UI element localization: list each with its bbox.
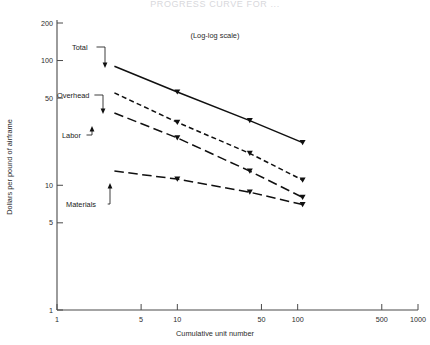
x-tick-label: 500 bbox=[376, 315, 388, 324]
leader-line-materials bbox=[108, 188, 110, 204]
leader-line-labor bbox=[87, 131, 93, 135]
x-axis-title: Cumulative unit number bbox=[176, 329, 255, 338]
data-point-marker bbox=[174, 135, 180, 140]
series-line-labor bbox=[114, 113, 302, 197]
data-point-marker bbox=[174, 89, 180, 94]
data-point-marker bbox=[300, 178, 306, 183]
series-label-total: Total bbox=[72, 43, 88, 52]
data-series-group bbox=[114, 66, 305, 207]
leader-arrow-materials bbox=[108, 183, 113, 189]
log-log-scale-note: (Log-log scale) bbox=[191, 31, 240, 40]
chart-title: PROGRESS CURVE FOR ... bbox=[150, 0, 280, 9]
x-tick-label: 1 bbox=[55, 315, 59, 324]
series-line-overhead bbox=[114, 93, 302, 180]
data-point-marker bbox=[300, 195, 306, 200]
y-tick-label: 10 bbox=[45, 181, 53, 190]
chart-canvas: PROGRESS CURVE FOR ... (Log-log scale) D… bbox=[0, 0, 430, 345]
y-axis-title: Dollars per pound of airframe bbox=[5, 119, 14, 215]
y-tick-label: 200 bbox=[41, 19, 53, 28]
progress-curve-chart: PROGRESS CURVE FOR ... (Log-log scale) D… bbox=[0, 0, 430, 345]
data-point-marker bbox=[174, 120, 180, 125]
series-line-total bbox=[114, 66, 302, 142]
data-point-marker bbox=[300, 140, 306, 145]
leader-arrow-overhead bbox=[101, 109, 106, 115]
y-tick-label: 1 bbox=[49, 306, 53, 315]
x-tick-label: 50 bbox=[257, 315, 265, 324]
x-tick-label: 10 bbox=[173, 315, 181, 324]
leader-line-total bbox=[97, 47, 106, 63]
series-label-group: TotalOverheadLaborMaterials bbox=[57, 43, 112, 209]
leader-arrow-total bbox=[103, 63, 108, 69]
y-tick-label: 100 bbox=[41, 56, 53, 65]
x-tick-label: 100 bbox=[292, 315, 304, 324]
series-label-overhead: Overhead bbox=[57, 91, 89, 100]
data-point-marker bbox=[247, 169, 253, 174]
y-tick-label: 50 bbox=[45, 94, 53, 103]
series-label-materials: Materials bbox=[66, 200, 96, 209]
series-label-labor: Labor bbox=[62, 131, 81, 140]
x-axis-ticks: 1510501005001000 bbox=[55, 304, 426, 324]
leader-line-overhead bbox=[94, 95, 103, 109]
series-line-materials bbox=[114, 171, 302, 205]
x-tick-label: 5 bbox=[139, 315, 143, 324]
x-tick-label: 1000 bbox=[410, 315, 426, 324]
leader-arrow-labor bbox=[90, 126, 95, 132]
y-axis-ticks: 151050100200 bbox=[41, 19, 63, 315]
data-point-marker bbox=[247, 118, 253, 123]
y-tick-label: 5 bbox=[49, 218, 53, 227]
